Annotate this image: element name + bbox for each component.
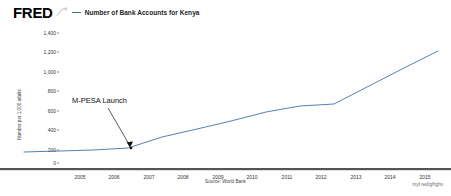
annotation-point-marker [130, 147, 133, 150]
annotation-leader-line [108, 108, 130, 146]
chart-header: FRED Number of Bank Accounts for Kenya [0, 0, 451, 24]
fred-chart-figure: FRED Number of Bank Accounts for Kenya 1… [0, 0, 451, 196]
x-axis-bar [0, 168, 451, 170]
plot-canvas [0, 24, 451, 172]
legend-line-icon [72, 12, 81, 13]
plot-area: 1,400 1,200 1,000 800 600 400 200 0 Numb… [0, 24, 451, 172]
fred-logo: FRED [13, 5, 53, 20]
y-tick-marks [57, 33, 59, 163]
fred-squiggle-icon [56, 7, 68, 18]
source-caption: Source: World Bank [0, 179, 451, 184]
fred-watermark-url: myf.red/g/hghv [413, 182, 443, 187]
annotation-mpesa-launch: M-PESA Launch [72, 96, 127, 105]
chart-title: Number of Bank Accounts for Kenya [85, 9, 200, 16]
